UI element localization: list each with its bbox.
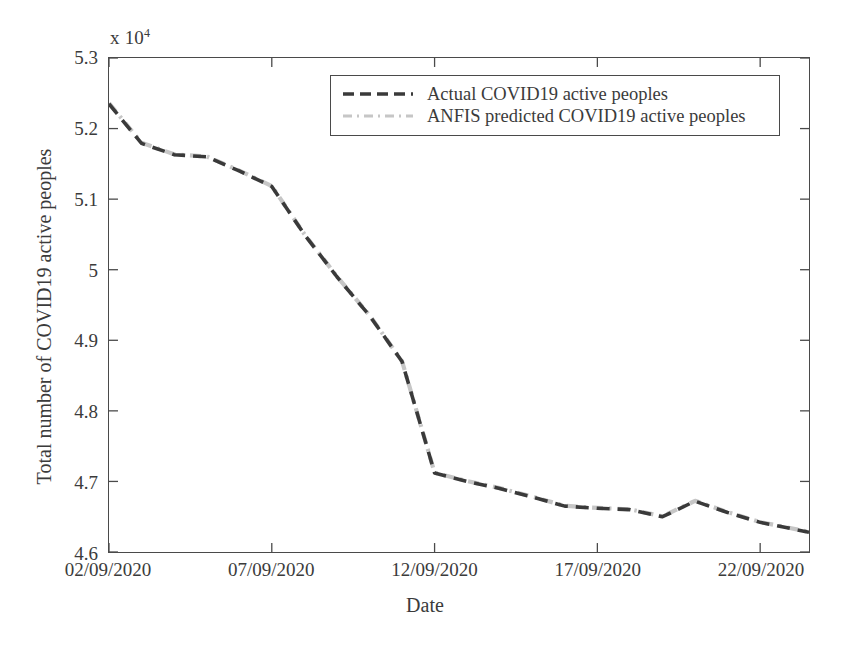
y-axis-title: Total number of COVID19 active peoples	[33, 67, 56, 567]
y-axis-tick-label: 5.1	[52, 189, 98, 208]
y-axis-exponent-power: 4	[144, 26, 150, 40]
legend-sample-actual-icon	[341, 87, 415, 101]
y-axis-tick-label: 4.9	[52, 331, 98, 350]
series-line-actual	[109, 104, 809, 532]
y-axis-tick-label: 5.2	[52, 118, 98, 137]
y-axis-tick-label: 4.8	[52, 402, 98, 421]
x-axis-tick-labels: 02/09/202007/09/202012/09/202017/09/2020…	[0, 560, 850, 590]
x-axis-tick-label: 22/09/2020	[718, 560, 805, 579]
y-axis-exponent-prefix: x 10	[110, 27, 144, 48]
chart-legend: Actual COVID19 active peoples ANFIS pred…	[330, 75, 780, 136]
x-axis-title: Date	[0, 594, 850, 617]
y-axis-tick-labels: 4.64.74.84.955.15.25.3	[52, 0, 98, 646]
y-axis-tick-label: 5.3	[52, 48, 98, 67]
y-axis-exponent-label: x 104	[110, 26, 150, 49]
legend-label-actual: Actual COVID19 active peoples	[427, 85, 668, 104]
y-axis-tick-label: 4.7	[52, 473, 98, 492]
x-axis-tick-label: 17/09/2020	[554, 560, 641, 579]
x-axis-tick-label: 12/09/2020	[391, 560, 478, 579]
legend-sample-predicted-icon	[341, 109, 415, 123]
legend-label-predicted: ANFIS predicted COVID19 active peoples	[427, 107, 746, 126]
series-line-predicted	[109, 103, 809, 532]
x-axis-tick-label: 07/09/2020	[228, 560, 315, 579]
y-axis-tick-label: 5	[52, 260, 98, 279]
legend-item-actual: Actual COVID19 active peoples	[341, 83, 769, 105]
x-axis-tick-label: 02/09/2020	[65, 560, 152, 579]
legend-item-predicted: ANFIS predicted COVID19 active peoples	[341, 105, 769, 127]
chart-figure: x 104 4.64.74.84.955.15.25.3 02/09/20200…	[0, 0, 850, 646]
